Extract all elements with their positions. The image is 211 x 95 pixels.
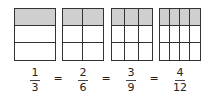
numerator: 1 xyxy=(25,67,45,79)
denominator: 6 xyxy=(73,82,93,94)
shaded-cell xyxy=(63,9,83,26)
shaded-cell xyxy=(160,9,170,26)
empty-cell xyxy=(83,43,103,60)
fraction-model-4 xyxy=(159,8,201,61)
empty-cell xyxy=(125,26,138,43)
fraction-3-9: 3 9 xyxy=(121,67,141,94)
fraction-4-12: 4 12 xyxy=(170,67,190,94)
numerator: 3 xyxy=(121,67,141,79)
equals-sign: = xyxy=(53,73,63,84)
shaded-cell xyxy=(139,9,152,26)
empty-cell xyxy=(139,43,152,60)
shaded-cell xyxy=(190,9,200,26)
equals-sign: = xyxy=(149,73,159,84)
empty-cell xyxy=(63,26,83,43)
denominator: 12 xyxy=(170,82,190,94)
empty-cell xyxy=(125,43,138,60)
shaded-cell xyxy=(15,9,55,26)
shaded-cell xyxy=(170,9,180,26)
empty-cell xyxy=(112,43,125,60)
fraction-1-3: 1 3 xyxy=(25,67,45,94)
shaded-cell xyxy=(180,9,190,26)
empty-cell xyxy=(170,43,180,60)
shaded-cell xyxy=(83,9,103,26)
empty-cell xyxy=(112,26,125,43)
empty-cell xyxy=(160,43,170,60)
empty-cell xyxy=(15,43,55,60)
denominator: 3 xyxy=(25,82,45,94)
numerator: 2 xyxy=(73,67,93,79)
shaded-cell xyxy=(112,9,125,26)
empty-cell xyxy=(139,26,152,43)
fraction-2-6: 2 6 xyxy=(73,67,93,94)
fraction-model-2 xyxy=(62,8,104,61)
equals-sign: = xyxy=(101,73,111,84)
denominator: 9 xyxy=(121,82,141,94)
empty-cell xyxy=(83,26,103,43)
fraction-model-1 xyxy=(14,8,56,61)
empty-cell xyxy=(190,43,200,60)
empty-cell xyxy=(63,43,83,60)
shaded-cell xyxy=(125,9,138,26)
empty-cell xyxy=(160,26,170,43)
empty-cell xyxy=(15,26,55,43)
empty-cell xyxy=(190,26,200,43)
fraction-model-3 xyxy=(111,8,153,61)
empty-cell xyxy=(180,43,190,60)
empty-cell xyxy=(170,26,180,43)
empty-cell xyxy=(180,26,190,43)
numerator: 4 xyxy=(170,67,190,79)
